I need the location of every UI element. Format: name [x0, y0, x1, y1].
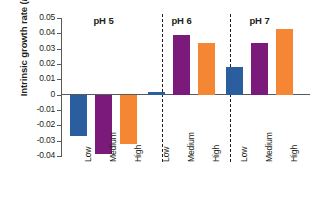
bar — [276, 29, 293, 95]
panel-title: pH 6 — [171, 15, 191, 26]
bar — [251, 43, 268, 95]
bar — [148, 92, 165, 95]
y-axis-tick-label: -0.03 — [21, 136, 55, 145]
plot-area: pH 5LowMediumHighpH 6LowMediumHighpH 7Lo… — [62, 18, 312, 156]
x-axis-category-label: Low — [83, 147, 93, 162]
bar — [173, 35, 190, 95]
x-axis-category-label: Low — [239, 147, 249, 162]
x-axis-category-label: High — [289, 145, 299, 162]
y-axis-tick-label: 0.04 — [21, 28, 55, 37]
y-axis-tick-label: -0.01 — [21, 105, 55, 114]
x-axis-category-label: Medium — [264, 132, 274, 162]
x-axis-category-label: Medium — [108, 132, 118, 162]
y-axis-tick-label: 0.02 — [21, 59, 55, 68]
bar — [198, 43, 215, 95]
bar — [120, 95, 137, 144]
x-axis-category-label: High — [211, 145, 221, 162]
chart-figure: Intrinsic growth rate (r) 0.050.040.030.… — [0, 0, 320, 198]
y-axis-tick-label: 0.01 — [21, 74, 55, 83]
y-axis-tick-label: 0.05 — [21, 13, 55, 22]
panel-title: pH 5 — [93, 15, 113, 26]
x-axis-category-label: Low — [161, 147, 171, 162]
panel-title: pH 7 — [249, 15, 269, 26]
y-axis-tick-labels: 0.050.040.030.020.010-0.01-0.02-0.03-0.0… — [21, 0, 55, 198]
x-axis-category-label: Medium — [186, 132, 196, 162]
panel-divider — [162, 14, 163, 162]
bar — [226, 67, 243, 95]
y-axis-tick-label: -0.04 — [21, 151, 55, 160]
y-axis-tick-mark — [57, 156, 62, 157]
y-axis-tick-label: -0.02 — [21, 120, 55, 129]
y-axis-tick-label: 0.03 — [21, 44, 55, 53]
y-axis-tick-label: 0 — [21, 90, 55, 99]
bar — [70, 95, 87, 136]
x-axis-category-label: High — [133, 145, 143, 162]
